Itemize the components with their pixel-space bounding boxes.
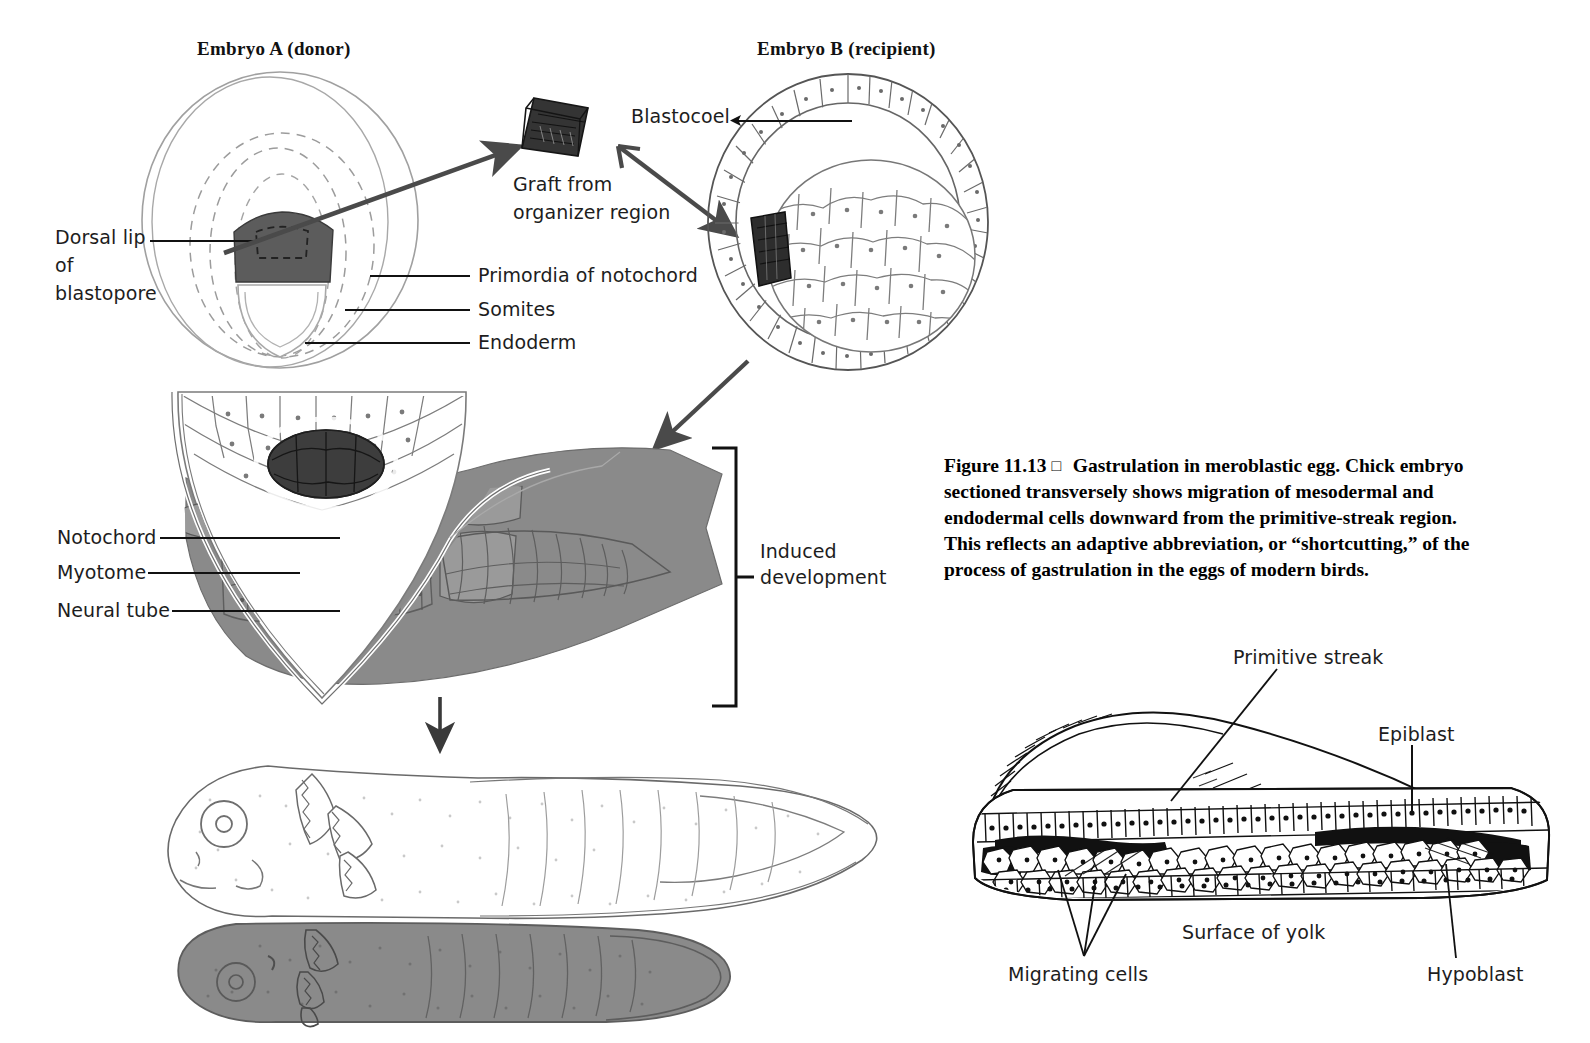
leader-notochord <box>160 537 340 539</box>
transplant-arrow <box>218 135 538 260</box>
caption-number: Figure 11.13 <box>944 455 1047 476</box>
figure-caption: Figure 11.13 □ Gastrulation in meroblast… <box>944 453 1484 583</box>
blastocoel-arrowhead-icon <box>730 112 752 130</box>
square-marker-icon: □ <box>1051 457 1063 474</box>
leader-somites <box>345 309 470 311</box>
label-neural-tube: Neural tube <box>57 598 170 623</box>
graft-block-icon <box>508 92 604 172</box>
label-blastocoel: Blastocoel <box>631 104 730 129</box>
induced-development-bracket-icon <box>706 446 756 708</box>
label-dorsal-lip-line1: Dorsal lip <box>55 225 146 250</box>
leader-epiblast <box>1411 745 1413 815</box>
label-myotome: Myotome <box>57 560 146 585</box>
label-graft-line1: Graft from <box>513 172 612 197</box>
leader-blastocoel <box>736 120 852 122</box>
label-epiblast: Epiblast <box>1378 722 1454 747</box>
label-surface-of-yolk: Surface of yolk <box>1182 920 1325 945</box>
conjoined-tadpole-illustration <box>140 740 900 1030</box>
embryo-b-header: Embryo B (recipient) <box>757 38 936 60</box>
label-somites: Somites <box>478 297 555 322</box>
leader-myotome <box>148 572 300 574</box>
induced-cross-section-diagram <box>150 378 750 708</box>
leader-migrating-cells <box>1040 860 1180 960</box>
label-migrating-cells: Migrating cells <box>1008 962 1148 987</box>
leader-primitive-streak <box>1165 665 1285 805</box>
leader-hypoblast <box>1432 862 1472 962</box>
label-hypoblast: Hypoblast <box>1427 962 1523 987</box>
embryo-a-header: Embryo A (donor) <box>197 38 351 60</box>
label-endoderm: Endoderm <box>478 330 576 355</box>
label-induced-line1: Induced <box>760 539 837 564</box>
leader-endoderm <box>305 342 470 344</box>
label-dorsal-lip-line3: blastopore <box>55 281 157 306</box>
label-notochord: Notochord <box>57 525 156 550</box>
leader-primordia <box>370 275 470 277</box>
label-dorsal-lip-line2: of <box>55 253 74 278</box>
leader-neural-tube <box>172 610 340 612</box>
label-induced-line2: development <box>760 565 886 590</box>
label-primordia-notochord: Primordia of notochord <box>478 263 698 288</box>
